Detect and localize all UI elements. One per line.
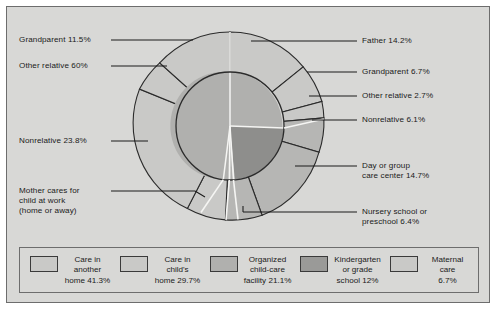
legend-swatch-icon-organized-facility — [210, 256, 238, 272]
callout-other-relative-left: Other relative 60% — [19, 61, 88, 71]
inner-pie — [170, 71, 284, 180]
legend-label-kindergarten: Kindergarten or grade school 12% — [333, 255, 384, 286]
legend-swatch-icon-maternal-care — [390, 256, 418, 272]
callout-nonrelative-right: Nonrelative 6.1% — [362, 115, 425, 125]
legend-item-care-childs-home: Care in child's home 29.7% — [114, 255, 204, 286]
chart-legend: Care in another home 41.3% Care in child… — [19, 247, 479, 293]
callout-father: Father 14.2% — [362, 36, 412, 46]
legend-item-kindergarten: Kindergarten or grade school 12% — [294, 255, 384, 286]
callout-nursery-school: Nursery school or preschool 6.4% — [362, 207, 427, 227]
callout-mother-at-work: Mother cares for child at work (home or … — [19, 186, 80, 217]
callout-day-care-center: Day or group care center 14.7% — [362, 161, 429, 181]
chart-figure: Grandparent 11.5% Other relative 60% Non… — [6, 6, 490, 303]
legend-item-care-another-home: Care in another home 41.3% — [24, 255, 114, 286]
legend-label-care-childs-home: Care in child's home 29.7% — [153, 255, 204, 286]
legend-swatch-icon-care-another-home — [30, 256, 58, 272]
legend-swatch-icon-care-childs-home — [120, 256, 148, 272]
callout-grandparent-right: Grandparent 6.7% — [362, 67, 430, 77]
callout-grandparent-left: Grandparent 11.5% — [19, 35, 91, 45]
legend-item-maternal-care: Maternal care 6.7% — [384, 255, 474, 286]
callout-nonrelative-left: Nonrelative 23.8% — [19, 136, 87, 146]
legend-label-organized-facility: Organized child-care facility 21.1% — [243, 255, 294, 286]
legend-swatch-icon-kindergarten — [300, 256, 328, 272]
legend-label-care-another-home: Care in another home 41.3% — [63, 255, 114, 286]
legend-item-organized-facility: Organized child-care facility 21.1% — [204, 255, 294, 286]
legend-label-maternal-care: Maternal care 6.7% — [423, 255, 474, 286]
callout-other-relative-right: Other relative 2.7% — [362, 91, 433, 101]
